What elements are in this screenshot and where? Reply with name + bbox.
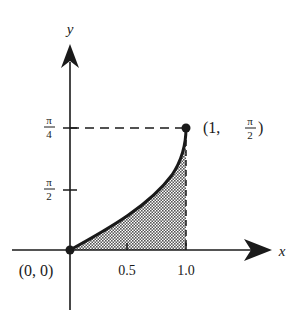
x-tick-label-0.5: 0.5 bbox=[118, 263, 136, 278]
point-end bbox=[182, 124, 191, 133]
y-axis-label: y bbox=[65, 21, 74, 37]
svg-text:4: 4 bbox=[46, 128, 52, 140]
svg-text:2: 2 bbox=[46, 190, 52, 202]
svg-text:): ) bbox=[258, 119, 263, 137]
svg-text:2: 2 bbox=[247, 129, 253, 141]
diagram-canvas: y x 0.5 1.0 π 4 π 2 (0, 0) (1, π 2 ) bbox=[0, 0, 299, 332]
svg-text:π: π bbox=[46, 176, 52, 188]
x-tick-label-1.0: 1.0 bbox=[177, 263, 195, 278]
point-origin bbox=[66, 246, 75, 255]
svg-text:π: π bbox=[46, 114, 52, 126]
x-axis-label: x bbox=[278, 243, 286, 259]
svg-text:(1,: (1, bbox=[203, 119, 220, 137]
origin-label: (0, 0) bbox=[19, 262, 54, 280]
shaded-region bbox=[70, 128, 186, 250]
y-tick-label-pi-over-4: π 4 bbox=[44, 114, 55, 140]
svg-text:π: π bbox=[247, 115, 253, 127]
end-point-label: (1, π 2 ) bbox=[203, 115, 263, 141]
y-tick-label-pi-over-2: π 2 bbox=[44, 176, 55, 202]
